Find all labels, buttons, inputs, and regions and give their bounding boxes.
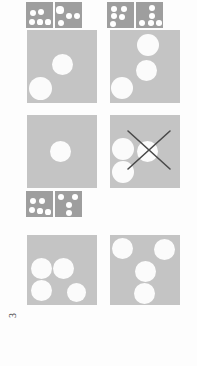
- card-dot: [53, 258, 74, 279]
- card-dot: [136, 60, 157, 81]
- domino-middle-left-right-half: [55, 191, 82, 217]
- card-dot: [112, 238, 133, 259]
- card-dot: [135, 261, 156, 282]
- domino-middle-left: [26, 191, 82, 217]
- domino-pip: [38, 9, 45, 16]
- card-dot: [52, 54, 73, 75]
- card-dot: [112, 161, 134, 183]
- page-number: 3: [8, 313, 18, 318]
- domino-pip: [156, 20, 162, 26]
- domino-pip: [72, 194, 79, 201]
- domino-pip: [111, 6, 117, 12]
- domino-pip: [110, 21, 116, 27]
- domino-pip: [39, 198, 46, 205]
- card-dot: [134, 283, 155, 304]
- card-row1-left[interactable]: [27, 30, 97, 103]
- card-row3-right[interactable]: [110, 235, 180, 305]
- domino-top-right: [107, 2, 163, 28]
- card-row2-left[interactable]: [27, 115, 97, 188]
- domino-pip: [45, 209, 50, 214]
- domino-pip: [30, 10, 37, 17]
- card-row2-right[interactable]: [110, 115, 180, 188]
- domino-pip: [37, 208, 42, 213]
- domino-top-right-left-half: [107, 2, 134, 28]
- domino-top-left-left-half: [26, 2, 53, 28]
- card-dot: [67, 283, 86, 302]
- domino-pip: [149, 13, 156, 20]
- card-dot: [50, 141, 71, 162]
- domino-top-right-right-half: [136, 2, 163, 28]
- domino-middle-left-left-half: [26, 191, 53, 217]
- domino-pip: [37, 19, 42, 24]
- domino-top-left-right-half: [55, 2, 82, 28]
- domino-top-left: [26, 2, 82, 28]
- card-dot: [112, 138, 134, 160]
- card-dot: [31, 258, 52, 279]
- card-dot: [137, 141, 158, 162]
- card-row1-right[interactable]: [110, 30, 180, 103]
- domino-pip: [29, 207, 35, 213]
- domino-pip: [29, 19, 36, 26]
- worksheet-page: [0, 0, 197, 366]
- domino-pip: [45, 19, 50, 24]
- domino-pip: [148, 20, 154, 26]
- domino-pip: [66, 13, 72, 19]
- domino-pip: [111, 13, 117, 19]
- domino-pip: [74, 13, 80, 19]
- domino-pip: [149, 5, 156, 12]
- domino-pip: [66, 210, 72, 216]
- card-row3-left[interactable]: [27, 235, 97, 305]
- domino-pip: [119, 14, 126, 21]
- card-dot: [137, 34, 159, 56]
- card-dot: [154, 239, 175, 260]
- domino-pip: [58, 194, 65, 201]
- card-dot: [111, 77, 133, 99]
- domino-pip: [56, 6, 63, 13]
- domino-pip: [139, 20, 145, 26]
- domino-pip: [66, 202, 73, 209]
- domino-pip: [30, 198, 37, 205]
- domino-pip: [121, 6, 127, 12]
- card-dot: [29, 77, 52, 100]
- domino-pip: [58, 20, 64, 26]
- card-dot: [31, 280, 52, 301]
